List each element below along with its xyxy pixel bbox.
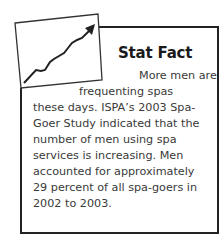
- body-line: 29 percent of all spa-goers in: [33, 180, 217, 196]
- box-border-left: [20, 88, 22, 234]
- box-body: More men are frequenting spas these days…: [33, 68, 217, 212]
- body-line: 2002 to 2003.: [33, 196, 217, 212]
- body-line: services is increasing. Men: [33, 148, 217, 164]
- body-line: More men are: [33, 68, 217, 84]
- body-line: these days. ISPA’s 2003 Spa-: [33, 100, 217, 116]
- box-border-bottom: [20, 232, 219, 234]
- box-border-right: [217, 26, 219, 234]
- body-line: accounted for approximately: [33, 164, 217, 180]
- body-line: number of men using spa: [33, 132, 217, 148]
- body-line: frequenting spas: [33, 84, 217, 100]
- box-title: Stat Fact: [118, 44, 192, 62]
- box-border-top: [99, 26, 219, 28]
- body-line: Goer Study indicated that the: [33, 116, 217, 132]
